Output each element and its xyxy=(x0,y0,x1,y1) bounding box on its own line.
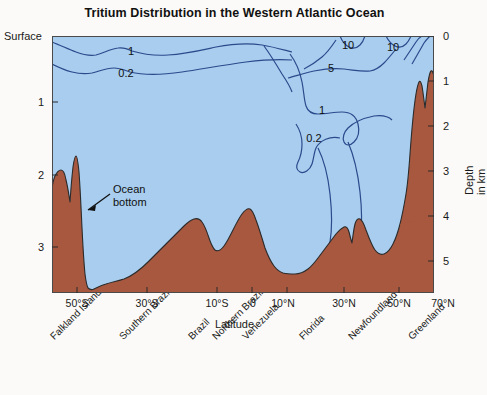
y-tick-left-2: 2 xyxy=(14,169,44,181)
contour-label-10-b: 10 xyxy=(387,41,399,53)
y-tick-left-1: 1 xyxy=(14,96,44,108)
contour-label-0p2-right: 0.2 xyxy=(306,132,321,144)
contour-label-1-right: 1 xyxy=(319,104,325,116)
contour-label-5: 5 xyxy=(328,62,334,74)
place-label-northern-brazil: Northern Brazil xyxy=(210,287,265,342)
y-tick-right-5: 5 xyxy=(443,255,473,267)
y-tick-right-1: 1 xyxy=(443,75,473,87)
place-label-southern-brazil: Southern Brazil xyxy=(117,286,173,342)
annotation-line-2: bottom xyxy=(113,196,147,208)
y-tick-left-3: 3 xyxy=(14,241,44,253)
page-title: Tritium Distribution in the Western Atla… xyxy=(0,6,469,20)
contour-label-0p2-left: 0.2 xyxy=(118,67,133,79)
y-tick-right-3: 3 xyxy=(443,165,473,177)
surface-axis-label: Surface xyxy=(4,30,42,42)
y-tick-right-0: 0 xyxy=(443,30,473,42)
y-tick-right-2: 2 xyxy=(443,120,473,132)
x-tick-30N: 30°N xyxy=(321,297,367,309)
y-tick-right-4: 4 xyxy=(443,210,473,222)
contour-label-1-left: 1 xyxy=(128,45,134,57)
contour-label-10-a: 10 xyxy=(342,39,354,51)
annotation-line-1: Ocean xyxy=(113,183,145,195)
plot-area: Ocean bottom 1 0.2 10 10 5 1 0.2 xyxy=(52,36,434,293)
